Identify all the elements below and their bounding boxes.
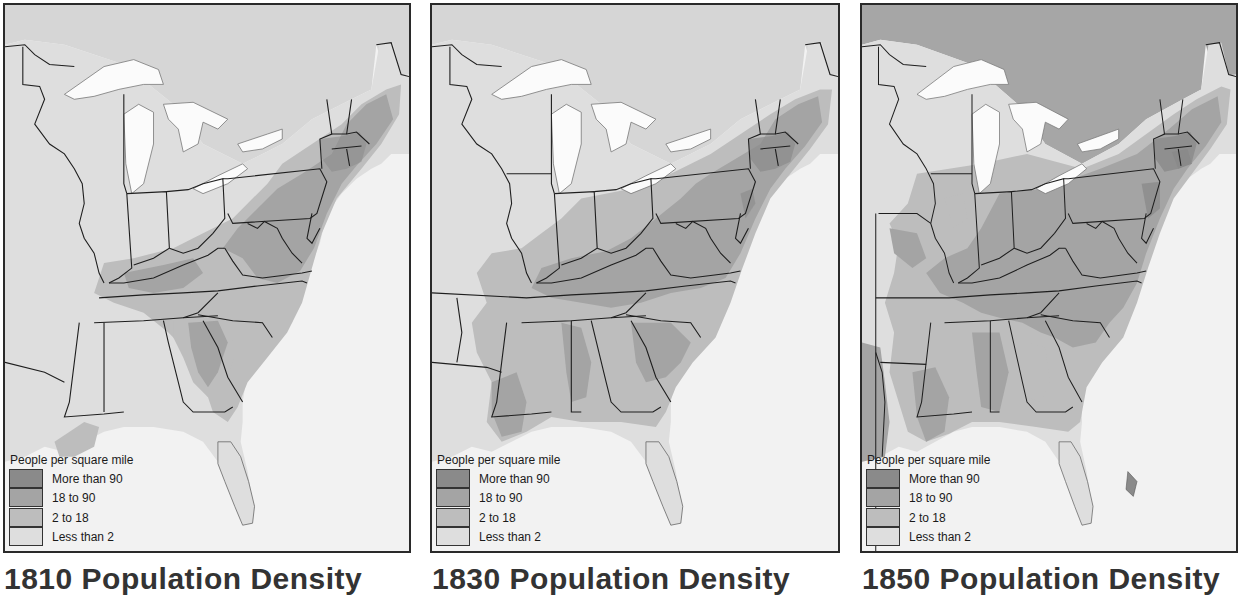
legend-item-2-to-18: 2 to 18 — [9, 508, 133, 528]
map-panel-1850: People per square mile More than 90 18 t… — [860, 3, 1238, 553]
legend-swatch — [436, 527, 470, 546]
map-panel-1810: People per square mile More than 90 18 t… — [3, 3, 411, 553]
map-title-1850: 1850 Population Density — [862, 562, 1220, 596]
legend-item-18-to-90: 18 to 90 — [436, 489, 560, 509]
legend-item-more-than-90: More than 90 — [436, 469, 560, 489]
legend-title: People per square mile — [437, 453, 560, 467]
legend-swatch — [436, 508, 470, 527]
map-title-1830: 1830 Population Density — [432, 562, 790, 596]
legend-item-more-than-90: More than 90 — [9, 469, 133, 489]
legend-swatch — [9, 527, 43, 546]
legend-swatch — [866, 488, 900, 507]
legend-item-2-to-18: 2 to 18 — [436, 508, 560, 528]
legend-title: People per square mile — [10, 453, 133, 467]
legend-1850: People per square mile More than 90 18 t… — [866, 453, 990, 547]
legend-item-18-to-90: 18 to 90 — [9, 489, 133, 509]
legend-item-2-to-18: 2 to 18 — [866, 508, 990, 528]
legend-swatch — [9, 469, 43, 488]
map-panel-1830: People per square mile More than 90 18 t… — [430, 3, 840, 553]
legend-item-more-than-90: More than 90 — [866, 469, 990, 489]
legend-swatch — [9, 508, 43, 527]
legend-swatch — [436, 469, 470, 488]
legend-item-less-than-2: Less than 2 — [9, 528, 133, 548]
legend-title: People per square mile — [867, 453, 990, 467]
legend-item-18-to-90: 18 to 90 — [866, 489, 990, 509]
legend-item-less-than-2: Less than 2 — [436, 528, 560, 548]
map-title-1810: 1810 Population Density — [4, 562, 362, 596]
legend-item-less-than-2: Less than 2 — [866, 528, 990, 548]
legend-swatch — [436, 488, 470, 507]
legend-swatch — [9, 488, 43, 507]
legend-1810: People per square mile More than 90 18 t… — [9, 453, 133, 547]
legend-swatch — [866, 527, 900, 546]
legend-swatch — [866, 469, 900, 488]
legend-swatch — [866, 508, 900, 527]
legend-1830: People per square mile More than 90 18 t… — [436, 453, 560, 547]
